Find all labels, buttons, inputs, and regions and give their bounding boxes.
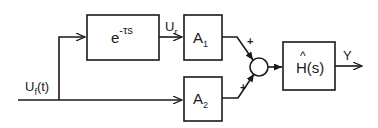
delay-exponent: -τs xyxy=(119,24,133,36)
a2-to-summer-line xyxy=(222,74,254,98)
summing-junction xyxy=(250,58,268,76)
ur-subscript: r xyxy=(174,27,177,37)
filter-label: H(s) xyxy=(296,60,324,75)
ur-symbol: U xyxy=(165,19,174,34)
delay-block-label: e-τs xyxy=(111,30,133,45)
gain-a1-label: A1 xyxy=(193,30,208,45)
uf-symbol: U xyxy=(25,79,34,94)
input-label: Uf(t) xyxy=(25,80,49,93)
summer-sign-top: + xyxy=(247,36,253,47)
a1-subscript: 1 xyxy=(203,39,208,49)
delay-output-label: Ur xyxy=(165,20,177,33)
gain-a2-label: A2 xyxy=(193,91,208,106)
uf-arg: (t) xyxy=(37,79,49,94)
a2-symbol: A xyxy=(193,90,203,107)
uf-subscript: f xyxy=(34,87,37,97)
output-label: Y xyxy=(343,49,352,62)
a2-subscript: 2 xyxy=(203,100,208,110)
summer-sign-bottom: + xyxy=(240,82,246,93)
branch-to-delay-line xyxy=(59,37,85,100)
a1-symbol: A xyxy=(193,29,203,46)
